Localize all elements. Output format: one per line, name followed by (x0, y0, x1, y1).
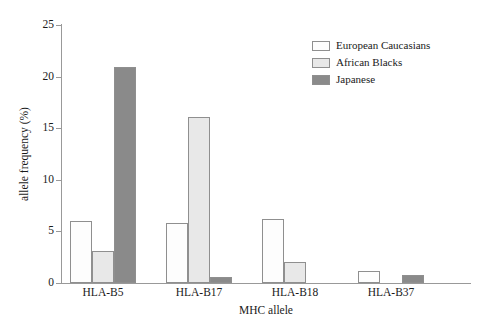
y-axis-tick-mark (56, 77, 61, 78)
x-axis-title: MHC allele (61, 305, 471, 317)
y-axis-tick-mark (56, 231, 61, 232)
y-axis-tick-mark (56, 180, 61, 181)
legend-label: European Caucasians (336, 40, 430, 51)
bar (92, 251, 114, 283)
bar (262, 219, 284, 283)
bar (402, 275, 424, 283)
y-axis-tick-label: 20 (43, 71, 55, 83)
x-axis-category-label: HLA-B17 (166, 287, 232, 299)
chart-figure: allele frequency (%) MHC allele 05101520… (0, 0, 483, 330)
bar (166, 223, 188, 283)
y-axis-title: allele frequency (%) (16, 25, 32, 283)
x-axis-category-label: HLA-B37 (358, 287, 424, 299)
y-axis-tick-label: 0 (48, 277, 54, 289)
bar (114, 67, 136, 283)
legend-swatch (312, 41, 330, 51)
y-axis-tick-label: 15 (43, 122, 55, 134)
bar (358, 271, 380, 283)
y-axis-tick-label: 5 (48, 226, 54, 238)
y-axis-tick-label: 25 (43, 19, 55, 31)
legend-swatch (312, 75, 330, 85)
x-axis-category-label: HLA-B18 (262, 287, 328, 299)
x-axis-line (61, 283, 471, 284)
x-axis-category-label: HLA-B5 (70, 287, 136, 299)
y-axis-tick-mark (56, 283, 61, 284)
bar (188, 117, 210, 283)
bar (210, 277, 232, 283)
legend: European CaucasiansAfrican BlacksJapanes… (312, 38, 430, 89)
legend-item: European Caucasians (312, 38, 430, 53)
legend-item: Japanese (312, 72, 430, 87)
y-axis-tick-mark (56, 128, 61, 129)
legend-label: African Blacks (336, 57, 402, 68)
y-axis-tick-label: 10 (43, 174, 55, 186)
y-axis-tick-mark (56, 25, 61, 26)
legend-item: African Blacks (312, 55, 430, 70)
legend-label: Japanese (336, 74, 375, 85)
legend-swatch (312, 58, 330, 68)
y-axis-title-holder: allele frequency (%) (16, 25, 32, 283)
bar (70, 221, 92, 283)
bar (284, 262, 306, 283)
